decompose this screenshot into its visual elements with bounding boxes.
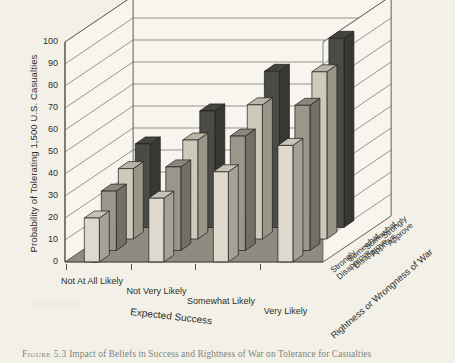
- bar-side: [116, 184, 126, 250]
- plot-area: [0, 0, 455, 363]
- bar-side: [310, 98, 320, 250]
- x-tick-mark: [131, 264, 132, 270]
- bar-side: [262, 98, 272, 239]
- bar-front: [84, 218, 99, 262]
- bar-side: [99, 211, 109, 262]
- x-tick-label: Somewhat Likely: [186, 296, 256, 307]
- bar-side: [327, 65, 337, 239]
- bar-side: [344, 31, 354, 227]
- x-tick-mark: [66, 264, 67, 270]
- bar-side: [164, 191, 174, 262]
- x-tick-label: Not At All Likely: [57, 276, 127, 287]
- bar-side: [293, 138, 303, 262]
- figure-caption-text: Impact of Beliefs in Success and Rightne…: [69, 349, 371, 359]
- bar-side: [245, 129, 255, 250]
- bar-side: [181, 160, 191, 251]
- x-tick-label: Not Very Likely: [122, 286, 192, 297]
- figure-container: Probability of Tolerating 1,500 U.S. Cas…: [0, 0, 455, 363]
- bar-front: [149, 198, 164, 262]
- bar-side: [198, 133, 208, 239]
- x-tick-mark: [195, 264, 196, 270]
- bar-front: [278, 145, 293, 262]
- bar-side: [133, 162, 143, 239]
- bar-side: [228, 165, 238, 262]
- x-tick-label: Very Likely: [251, 306, 321, 317]
- bar-front: [213, 172, 228, 262]
- figure-caption: Figure 5.3 Impact of Beliefs in Success …: [22, 349, 447, 359]
- x-tick-mark: [260, 264, 261, 270]
- figure-number: Figure 5.3: [22, 349, 67, 359]
